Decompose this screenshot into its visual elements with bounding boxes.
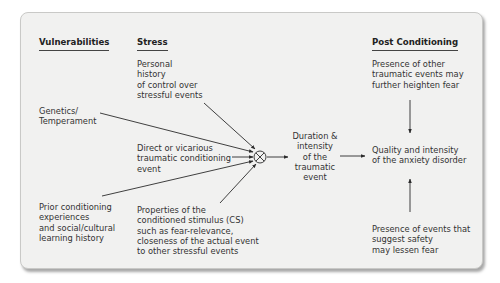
- connector-lines: [0, 0, 500, 283]
- arrow-properties-to-combiner: [220, 164, 256, 203]
- arrow-prior-to-combiner: [102, 161, 253, 196]
- multiply-circle-icon: [254, 151, 266, 163]
- arrow-history-to-combiner: [204, 103, 255, 149]
- arrow-genetics-to-combiner: [100, 113, 253, 152]
